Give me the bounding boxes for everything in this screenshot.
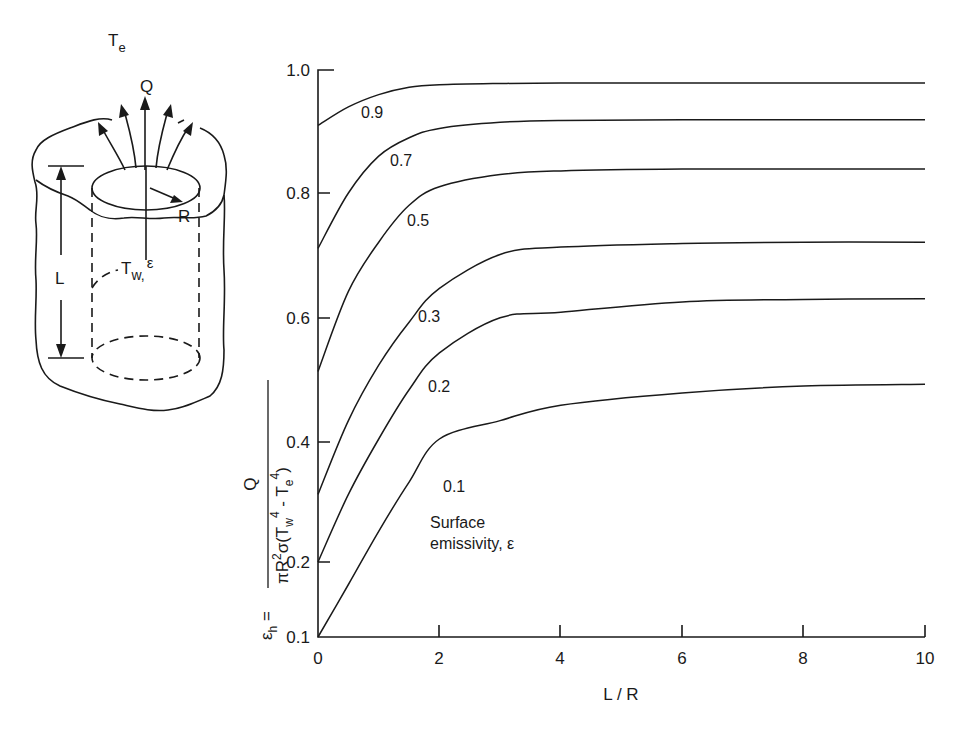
curve-emissivity-0.9: [318, 83, 925, 126]
curve-emissivity-0.3: [318, 242, 925, 494]
annotation-emissivity: emissivity, ε: [430, 535, 514, 552]
chart: 1.0 0.8 0.6 0.4 0.2 0.1 0 2 4 6 8 10 L /…: [241, 61, 934, 704]
cylinder-bottom: [92, 336, 200, 380]
curve-label-0.1: 0.1: [443, 478, 465, 495]
curve-label-0.7: 0.7: [390, 152, 412, 169]
curve-emissivity-0.7: [318, 120, 925, 249]
y-ticks: [318, 193, 330, 562]
y-axis-label: εh = Q πR2σ(Tw4 - Te4): [241, 380, 296, 640]
x-axis-label: L / R: [603, 685, 638, 704]
length-L-label: L: [55, 269, 64, 288]
top-surface-edge: [36, 180, 224, 219]
heat-flux-arrows: [98, 96, 193, 170]
svg-text:6: 6: [677, 649, 686, 668]
radius-R-label: R: [178, 207, 190, 226]
x-ticks: [439, 625, 925, 637]
figure: Te Q R: [0, 0, 960, 729]
curve-emissivity-0.2: [318, 299, 925, 562]
curve-label-0.9: 0.9: [361, 104, 383, 121]
svg-text:πR2σ(Tw4 - Te4): πR2σ(Tw4 - Te4): [268, 467, 296, 584]
svg-text:2: 2: [434, 649, 443, 668]
curve-label-0.5: 0.5: [407, 212, 429, 229]
svg-text:0: 0: [313, 649, 322, 668]
svg-text:4: 4: [555, 649, 564, 668]
svg-text:0.8: 0.8: [286, 184, 310, 203]
x-tick-labels: 0 2 4 6 8 10: [313, 649, 934, 668]
svg-text:8: 8: [798, 649, 807, 668]
curve-labels: 0.9 0.7 0.5 0.3 0.2 0.1: [361, 104, 465, 495]
svg-text:Q: Q: [241, 477, 260, 490]
svg-text:εh =: εh =: [257, 611, 280, 640]
ambient-temp-label: Te: [108, 31, 126, 55]
heat-Q-label: Q: [140, 77, 153, 96]
curve-label-0.2: 0.2: [428, 378, 450, 395]
cylinder-diagram: Te Q R: [32, 31, 226, 411]
wall-temp-label: Tw,ε: [121, 254, 154, 283]
length-arrow-up: [56, 166, 66, 180]
svg-text:0.1: 0.1: [286, 628, 310, 647]
svg-text:10: 10: [916, 649, 935, 668]
length-arrow-down: [56, 344, 66, 358]
svg-text:1.0: 1.0: [286, 61, 310, 80]
curve-emissivity-0.1: [318, 384, 925, 637]
annotation-surface: Surface: [430, 514, 485, 531]
curve-emissivity-0.5: [318, 169, 925, 372]
curve-label-0.3: 0.3: [418, 308, 440, 325]
svg-text:0.6: 0.6: [286, 309, 310, 328]
y-tick-labels: 1.0 0.8 0.6 0.4 0.2 0.1: [286, 61, 310, 647]
svg-text:0.4: 0.4: [286, 433, 310, 452]
